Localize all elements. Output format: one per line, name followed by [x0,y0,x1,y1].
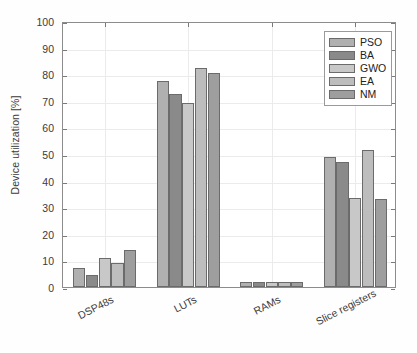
bar-pso-luts [157,81,169,287]
y-axis-tick [391,236,395,237]
y-axis-tick [391,289,395,290]
legend-label: GWO [360,63,386,74]
x-axis-tick-label: Slice registers [314,293,366,327]
legend-label: PSO [360,37,382,48]
bar-nm-dsp48s [124,250,136,287]
legend: PSOBAGWOEANM [324,31,392,106]
y-axis-tick-label: 0 [2,282,54,294]
legend-label: NM [360,89,376,100]
y-axis-tick [63,103,67,104]
y-axis-tick [63,262,67,263]
x-axis-tick-label: DSP48s [63,293,115,327]
bar-gwo-rams [266,282,278,287]
bar-ea-dsp48s [111,263,123,287]
x-axis-tick-label: RAMs [230,293,282,327]
y-axis-tick [391,129,395,130]
y-axis-tick [63,23,67,24]
y-axis-tick-label: 80 [2,69,54,81]
y-axis-tick [63,129,67,130]
x-axis-tick-label: LUTs [147,293,199,327]
y-axis-tick-label: 40 [2,176,54,188]
bar-group [73,21,136,287]
legend-label: EA [360,76,374,87]
y-axis-tick [63,209,67,210]
y-axis-tick-label: 90 [2,43,54,55]
legend-item-ba: BA [329,49,386,62]
y-axis-tick-label: 30 [2,202,54,214]
legend-swatch-gwo [329,64,355,73]
y-axis-tick-label: 50 [2,149,54,161]
figure: Device utilization [%] 01020304050607080… [0,0,417,353]
y-axis-tick-label: 60 [2,122,54,134]
y-axis-tick [391,209,395,210]
bar-ea-luts [195,68,207,287]
legend-swatch-ba [329,51,355,60]
y-axis-tick-label: 100 [2,16,54,28]
bar-group [240,21,303,287]
legend-label: BA [360,50,374,61]
y-axis-tick [63,50,67,51]
legend-item-nm: NM [329,88,386,101]
y-axis-tick-label: 20 [2,229,54,241]
bar-nm-slice-registers [375,199,387,287]
y-axis-tick [63,156,67,157]
y-axis-tick [391,156,395,157]
bar-nm-rams [291,282,303,287]
y-axis-tick [391,262,395,263]
y-axis-tick [63,236,67,237]
y-axis-tick-label: 10 [2,255,54,267]
bar-ea-rams [278,282,290,287]
bar-ba-luts [169,94,181,287]
y-axis-tick [63,76,67,77]
bar-gwo-slice-registers [349,198,361,287]
bar-pso-slice-registers [324,157,336,287]
legend-swatch-pso [329,38,355,47]
bar-pso-dsp48s [73,268,85,287]
legend-swatch-ea [329,77,355,86]
y-axis-tick [391,23,395,24]
bar-ba-rams [253,282,265,287]
bar-ba-slice-registers [336,162,348,287]
y-axis-tick [391,183,395,184]
legend-item-gwo: GWO [329,62,386,75]
legend-item-ea: EA [329,75,386,88]
y-axis-tick [63,289,67,290]
y-axis-tick-labels: 0102030405060708090100 [0,22,58,288]
y-axis-tick-label: 70 [2,96,54,108]
legend-swatch-nm [329,90,355,99]
legend-item-pso: PSO [329,36,386,49]
y-axis-tick [63,183,67,184]
bar-ba-dsp48s [86,275,98,287]
bar-nm-luts [208,73,220,287]
bar-pso-rams [240,282,252,287]
bar-gwo-luts [182,103,194,287]
bar-ea-slice-registers [362,150,374,287]
bar-gwo-dsp48s [99,258,111,287]
bar-group [157,21,220,287]
